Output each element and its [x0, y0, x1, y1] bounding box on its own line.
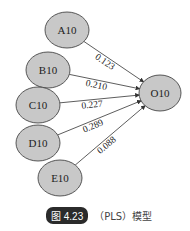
svg-text:D10: D10 — [29, 137, 48, 149]
node-B10: B10 — [26, 52, 70, 88]
edge-weight-label: 0.227 — [81, 99, 104, 111]
node-D10: D10 — [16, 125, 60, 161]
edge-weight-label: 0.088 — [95, 134, 118, 156]
path-diagram: 0.1230.2100.2270.2890.088 A10B10C10D10E1… — [0, 0, 190, 231]
svg-text:A10: A10 — [58, 24, 77, 36]
figure-title: （PLS）模型 — [94, 208, 152, 223]
svg-text:C10: C10 — [29, 99, 48, 111]
node-O10: O10 — [139, 75, 181, 111]
svg-text:E10: E10 — [51, 172, 69, 184]
figure-caption: 图 4.23 （PLS）模型 — [46, 207, 152, 224]
svg-text:B10: B10 — [39, 64, 58, 76]
edge-weight-label: 0.210 — [85, 78, 108, 92]
node-C10: C10 — [16, 87, 60, 123]
node-A10: A10 — [45, 12, 89, 48]
edge-weight-label: 0.289 — [81, 117, 105, 134]
node-E10: E10 — [38, 160, 82, 196]
figure-number-badge: 图 4.23 — [46, 207, 88, 224]
edge-weight-label: 0.123 — [93, 52, 117, 72]
svg-text:O10: O10 — [151, 87, 170, 99]
